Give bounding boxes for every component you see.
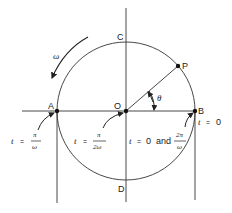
label-b: B (198, 106, 204, 116)
svg-text:=: = (206, 119, 210, 126)
svg-text:t: t (129, 136, 132, 146)
annotation-b: t = 0 (198, 117, 221, 127)
label-c: C (117, 32, 124, 42)
point-o (124, 109, 128, 113)
svg-text:π: π (97, 131, 101, 139)
svg-text:ω: ω (32, 143, 37, 151)
svg-text:0: 0 (146, 136, 151, 146)
svg-text:2ω: 2ω (93, 143, 102, 151)
label-d: D (118, 184, 125, 194)
radius-op (126, 66, 178, 111)
svg-text:=: = (137, 138, 141, 145)
svg-text:t: t (74, 136, 77, 146)
annotation-a: t = π ω (11, 131, 41, 151)
circular-motion-diagram: θ ω A O B C D P t = π ω t = π 2ω t = 0 a… (0, 0, 232, 213)
svg-text:t: t (11, 136, 14, 146)
pointer-arrow-a (38, 113, 54, 130)
svg-text:=: = (20, 138, 24, 145)
svg-text:0: 0 (216, 117, 221, 127)
point-b (193, 109, 197, 113)
svg-text:π: π (33, 131, 37, 139)
annotation-b-mid: t = 0 and 2π ω (129, 131, 186, 151)
pointer-arrow-o (103, 113, 123, 128)
point-p (176, 64, 180, 68)
svg-text:t: t (198, 117, 201, 127)
label-a: A (48, 101, 54, 111)
pointer-arrow-b (185, 113, 193, 127)
point-a (55, 109, 59, 113)
svg-text:=: = (83, 138, 87, 145)
annotation-o: t = π 2ω (74, 131, 106, 151)
theta-label: θ (157, 93, 162, 103)
svg-text:and: and (156, 136, 171, 146)
label-p: P (182, 61, 188, 71)
omega-label: ω (53, 51, 59, 61)
svg-text:2π: 2π (176, 131, 184, 139)
label-o: O (114, 101, 121, 111)
svg-text:ω: ω (177, 143, 182, 151)
